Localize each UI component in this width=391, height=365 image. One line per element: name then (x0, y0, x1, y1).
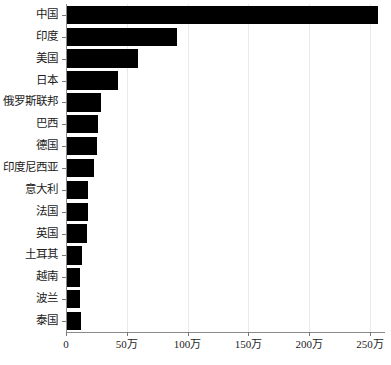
y-axis-label: 土耳其 (0, 249, 58, 261)
y-axis-label: 越南 (0, 271, 58, 283)
x-axis-tick-mark (309, 332, 310, 336)
bar (66, 246, 82, 264)
bar (66, 203, 88, 221)
y-axis-label: 泰国 (0, 315, 58, 327)
plot-area (66, 4, 385, 332)
bar (66, 290, 80, 308)
bar (66, 49, 138, 67)
y-axis-label: 俄罗斯联邦 (0, 96, 58, 108)
y-axis-tick-mark (62, 59, 66, 60)
y-axis-label: 印度尼西亚 (0, 162, 58, 174)
bar (66, 93, 101, 111)
x-axis-tick-mark (127, 332, 128, 336)
bar (66, 312, 81, 330)
y-axis-label: 法国 (0, 206, 58, 218)
y-axis-tick-mark (62, 255, 66, 256)
y-axis-label: 德国 (0, 140, 58, 152)
bar (66, 71, 118, 89)
y-axis-tick-mark (62, 299, 66, 300)
bar (66, 28, 177, 46)
x-axis-tick-mark (188, 332, 189, 336)
y-axis-tick-mark (62, 146, 66, 147)
y-axis-tick-mark (62, 277, 66, 278)
y-axis-label: 印度 (0, 31, 58, 43)
bar-chart: 中国印度美国日本俄罗斯联邦巴西德国印度尼西亚意大利法国英国土耳其越南波兰泰国 0… (0, 0, 391, 365)
x-axis-tick-mark (370, 332, 371, 336)
y-axis-tick-mark (62, 124, 66, 125)
x-axis-tick-label: 250万 (356, 339, 384, 350)
x-axis-tick-mark (66, 332, 67, 336)
y-axis-tick-mark (62, 234, 66, 235)
y-axis-label: 波兰 (0, 293, 58, 305)
x-axis-line (66, 332, 385, 333)
y-axis-tick-mark (62, 190, 66, 191)
bar (66, 137, 97, 155)
x-axis-tick-label: 50万 (116, 339, 138, 350)
bar (66, 268, 80, 286)
y-axis-label: 意大利 (0, 184, 58, 196)
x-axis-tick-label: 100万 (174, 339, 202, 350)
y-axis-tick-mark (62, 321, 66, 322)
y-axis-label: 美国 (0, 53, 58, 65)
y-axis-label: 英国 (0, 228, 58, 240)
x-axis-tick-label: 150万 (235, 339, 263, 350)
y-axis-label: 日本 (0, 75, 58, 87)
y-axis-label: 中国 (0, 9, 58, 21)
y-axis-tick-mark (62, 212, 66, 213)
y-axis-tick-mark (62, 15, 66, 16)
bar (66, 224, 87, 242)
x-axis-tick-label: 0 (63, 339, 69, 350)
y-axis-tick-mark (62, 168, 66, 169)
x-axis-tick-label: 200万 (295, 339, 323, 350)
y-axis-tick-mark (62, 81, 66, 82)
bar (66, 159, 94, 177)
bar (66, 6, 378, 24)
y-axis-tick-mark (62, 37, 66, 38)
bar (66, 181, 88, 199)
bar (66, 115, 98, 133)
y-axis-line (66, 4, 67, 332)
bar-series (66, 4, 385, 332)
x-axis-tick-mark (248, 332, 249, 336)
y-axis-label: 巴西 (0, 118, 58, 130)
y-axis-tick-mark (62, 102, 66, 103)
